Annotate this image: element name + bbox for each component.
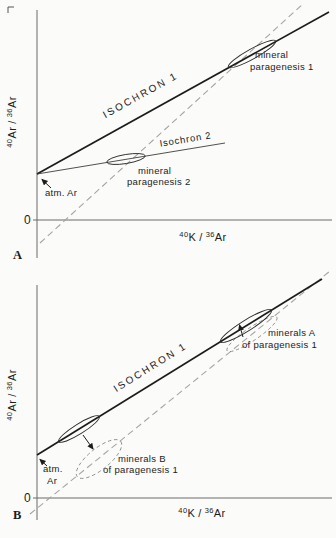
panel-a: 0 ISOCHRON 1 Isochron 2 mineral paragene… <box>0 0 336 269</box>
panel-b-figure: 0 ISOCHRON 1 minerals A of paragenesis 1… <box>0 269 336 538</box>
isochron-1-line <box>37 279 322 455</box>
panel-b: 0 ISOCHRON 1 minerals A of paragenesis 1… <box>0 269 336 538</box>
minerals-b-label-line2: of paragenesis 1 <box>103 464 178 475</box>
atm-ar-label-line1: atm. <box>43 463 63 474</box>
mineral-paragenesis-2-label-line1: mineral <box>138 165 171 176</box>
origin-zero-label: 0 <box>24 213 31 227</box>
mineral-paragenesis-1-label-line2: paragenesis 1 <box>250 61 314 72</box>
mineral-paragenesis-2-label-line2: paragenesis 2 <box>127 176 191 187</box>
panel-letter-a: A <box>13 248 22 262</box>
isochron-2-label: Isochron 2 <box>159 129 212 148</box>
panel-letter-b: B <box>13 508 21 522</box>
isochron-1-label: ISOCHRON 1 <box>101 70 180 120</box>
minerals-b-shift-arrow <box>83 435 93 449</box>
corner-crop-mark <box>8 7 14 13</box>
minerals-a-label-line2: of paragenesis 1 <box>242 339 317 350</box>
origin-zero-label: 0 <box>24 491 31 505</box>
minerals-b-label-line1: minerals B <box>118 453 166 464</box>
panel-a-figure: 0 ISOCHRON 1 Isochron 2 mineral paragene… <box>0 0 336 269</box>
atm-ar-label: atm. Ar <box>45 187 77 198</box>
dashed-reference-line <box>30 271 330 514</box>
minerals-a-label-line1: minerals A <box>268 327 316 338</box>
y-axis-label: 40Ar/36Ar <box>5 369 18 420</box>
atm-ar-label-line2: Ar <box>47 475 57 486</box>
dashed-reference-line <box>40 3 304 243</box>
mineral-paragenesis-1-label-line1: mineral <box>255 49 288 60</box>
y-axis-label: 40Ar/36Ar <box>5 96 18 147</box>
x-axis-label: 40K/36Ar <box>179 230 226 243</box>
x-axis-label: 40K/36Ar <box>178 506 225 519</box>
